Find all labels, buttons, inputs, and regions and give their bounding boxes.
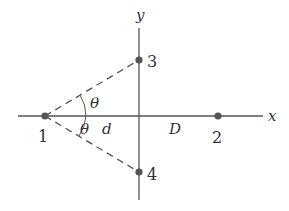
point-1 — [41, 112, 48, 119]
angle-arc-upper — [80, 95, 86, 116]
theta-upper-label: θ — [90, 94, 99, 112]
diagram-canvas: x y 1 2 3 4 θ θ d D — [0, 0, 289, 211]
theta-lower-label: θ — [80, 120, 89, 138]
x-axis-label: x — [268, 107, 277, 125]
point-4-label: 4 — [147, 165, 157, 184]
point-3 — [135, 56, 142, 63]
distance-D-label: D — [168, 120, 181, 138]
y-axis-label: y — [135, 6, 145, 24]
distance-d-label: d — [102, 120, 112, 138]
dashed-line-1-to-4 — [45, 116, 139, 172]
point-2-label: 2 — [212, 128, 222, 147]
point-4 — [135, 168, 142, 175]
point-1-label: 1 — [38, 127, 48, 146]
point-2 — [214, 112, 221, 119]
point-3-label: 3 — [147, 52, 157, 71]
